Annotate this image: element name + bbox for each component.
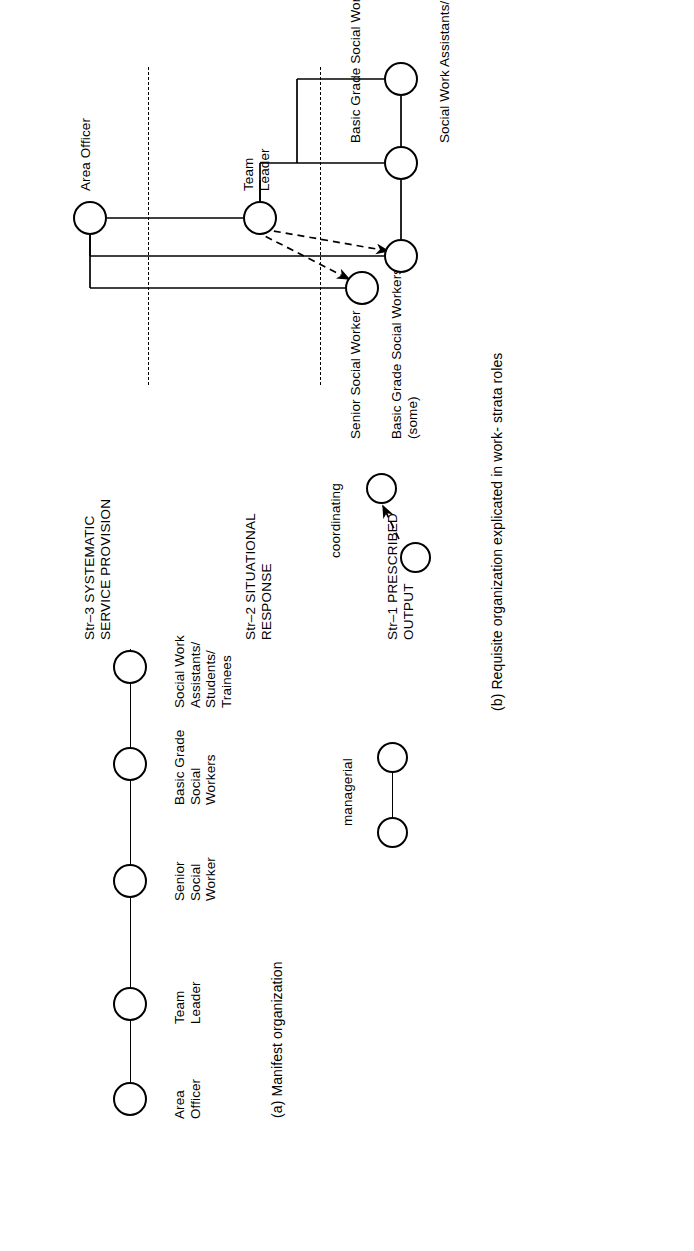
panel-b-connectors <box>0 0 694 1251</box>
panel-b-node-social-work-assistants[interactable] <box>384 62 418 96</box>
figure-canvas: Area Officer Team Leader Senior Social W… <box>0 0 694 1251</box>
panel-a-node-senior-social-worker[interactable] <box>113 864 147 898</box>
panel-b-node-basic-grade-other[interactable] <box>384 146 418 180</box>
panel-a-node-social-work-assistants[interactable] <box>113 650 147 684</box>
panel-b-node-senior-social-worker[interactable] <box>345 271 379 305</box>
legend-coordinating-node-to <box>366 473 397 504</box>
panel-b-node-area-officer[interactable] <box>73 201 107 235</box>
panel-a-node-basic-grade-social-workers[interactable] <box>113 747 147 781</box>
legend-coordinating-node-from <box>400 542 431 573</box>
legend-managerial-node-right <box>377 742 408 773</box>
legend-managerial-node-left <box>377 817 408 848</box>
panel-b-node-team-leader[interactable] <box>243 201 277 235</box>
panel-a-node-area-officer[interactable] <box>113 1082 147 1116</box>
panel-b-node-basic-grade-some[interactable] <box>384 239 418 273</box>
figure-rotator: Area Officer Team Leader Senior Social W… <box>0 0 694 1251</box>
panel-a-node-team-leader[interactable] <box>113 987 147 1021</box>
